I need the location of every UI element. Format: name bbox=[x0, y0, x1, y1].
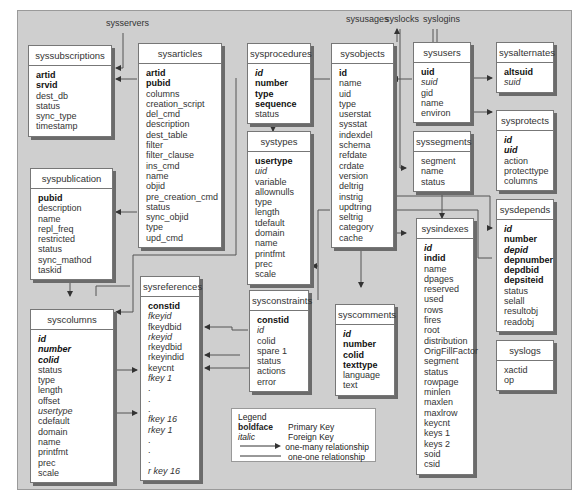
column-field: refdate bbox=[339, 150, 393, 160]
column-field: creation_script bbox=[146, 99, 221, 109]
column-field: srvid bbox=[36, 80, 111, 90]
legend-key-italic: italic bbox=[238, 432, 288, 442]
column-field: depnumber bbox=[504, 255, 553, 265]
table-syssegments[interactable]: syssegmentssegmentnamestatus bbox=[413, 131, 471, 192]
column-field: depid bbox=[504, 245, 553, 255]
column-field: sync_objid bbox=[146, 212, 221, 222]
table-title: syscolumns bbox=[31, 310, 113, 330]
table-sysdepends[interactable]: sysdependsidnumberdepiddepnumberdepdbidd… bbox=[496, 199, 554, 332]
legend-desc-foreign-key: Foreign Key bbox=[288, 432, 334, 442]
table-title: syssegments bbox=[414, 132, 470, 152]
legend-row-one-many: one-many relationship bbox=[238, 442, 369, 452]
legend-desc-primary-key: Primary Key bbox=[288, 422, 334, 432]
column-field: maxlrow bbox=[424, 408, 473, 418]
column-field: offset bbox=[38, 396, 113, 406]
column-list: segmentnamestatus bbox=[414, 152, 470, 191]
column-list: idnameuidtypeuserstatsysstatindexdelsche… bbox=[332, 64, 393, 247]
column-field: sequence bbox=[255, 99, 310, 109]
legend-key-boldface: boldface bbox=[238, 422, 288, 432]
column-list: xactidop bbox=[497, 361, 553, 390]
column-field: length bbox=[255, 207, 310, 217]
column-field: minlen bbox=[424, 387, 473, 397]
column-field: . bbox=[148, 394, 199, 404]
column-field: id bbox=[504, 224, 553, 234]
column-field: name bbox=[38, 214, 112, 224]
table-syscolumns[interactable]: syscolumnsidnumbercolidstatustypelengtho… bbox=[30, 309, 114, 483]
table-sysindexes[interactable]: sysindexesidindidnamedpagesreservedusedr… bbox=[416, 218, 474, 475]
column-field: seltrig bbox=[339, 212, 393, 222]
column-field: fires bbox=[424, 315, 473, 325]
column-field: segment bbox=[421, 156, 470, 166]
table-sysprotects[interactable]: sysprotectsiduidactionprotecttypecolumns bbox=[496, 110, 554, 191]
table-syscomments[interactable]: syscommentsidnumbercolidtexttypelanguage… bbox=[335, 304, 395, 396]
column-field: tdefault bbox=[255, 218, 310, 228]
column-field: distribution bbox=[424, 336, 473, 346]
column-field: cache bbox=[339, 233, 393, 243]
table-title: sysalternates bbox=[497, 43, 553, 63]
column-field: OrigFillFactor bbox=[424, 346, 473, 356]
column-field: number bbox=[255, 78, 310, 88]
table-syssubscriptions[interactable]: syssubscriptionsartidsrviddest_dbstatuss… bbox=[28, 45, 112, 137]
column-field: domain bbox=[255, 228, 310, 238]
column-field: prec bbox=[38, 458, 113, 468]
column-field: name bbox=[421, 166, 470, 176]
legend-row-one-one: one-one relationship bbox=[238, 452, 369, 462]
column-field: crdate bbox=[339, 161, 393, 171]
column-list: pubiddescriptionnamerepl_freqrestricteds… bbox=[31, 189, 112, 279]
table-title: sysprotects bbox=[497, 111, 553, 131]
legend-title: Legend bbox=[238, 412, 369, 422]
column-field: cdefault bbox=[38, 416, 113, 426]
column-field: pre_creation_cmd bbox=[146, 192, 221, 202]
table-title: sysusers bbox=[414, 43, 470, 63]
column-list: idindidnamedpagesreservedusedrowsfiresro… bbox=[417, 239, 473, 474]
column-field: pubid bbox=[38, 193, 112, 203]
column-field: restricted bbox=[38, 234, 112, 244]
table-title: syscomments bbox=[336, 305, 394, 325]
column-field: uid bbox=[255, 166, 310, 176]
external-table-sysusages: sysusages bbox=[346, 14, 389, 24]
arrow-line-icon bbox=[238, 442, 285, 452]
column-field: soid bbox=[424, 449, 473, 459]
column-field: rkeyindid bbox=[148, 352, 199, 362]
table-title: syspublication bbox=[31, 169, 112, 189]
table-title: sysdepends bbox=[497, 200, 553, 220]
column-field: description bbox=[38, 203, 112, 213]
column-field: keys 2 bbox=[424, 439, 473, 449]
table-sysusers[interactable]: sysusersuidsuidgidnameenviron bbox=[413, 42, 471, 123]
column-list: idnumbercolidtexttypelanguagetext bbox=[336, 325, 394, 395]
column-field: readobj bbox=[504, 317, 553, 327]
table-systypes[interactable]: systypesusertypeuidvariableallownullstyp… bbox=[247, 131, 311, 285]
table-title: sysobjects bbox=[332, 44, 393, 64]
column-field: maxlen bbox=[424, 397, 473, 407]
column-field: resultobj bbox=[504, 306, 553, 316]
column-field: variable bbox=[255, 177, 310, 187]
table-sysconstraints[interactable]: sysconstraintsconstididcolidspare 1statu… bbox=[249, 290, 309, 392]
column-field: printfmt bbox=[38, 447, 113, 457]
column-field: id bbox=[339, 68, 393, 78]
column-field: xactid bbox=[504, 365, 553, 375]
column-field: rowpage bbox=[424, 377, 473, 387]
table-sysreferences[interactable]: sysreferencesconstidfkeyidfkeydbidrkeyid… bbox=[140, 276, 200, 481]
table-title: syslogs bbox=[497, 341, 553, 361]
column-field: type bbox=[255, 89, 310, 99]
table-sysalternates[interactable]: sysalternatesaltsuidsuid bbox=[496, 42, 554, 93]
column-field: uid bbox=[504, 145, 553, 155]
table-sysarticles[interactable]: sysarticlesartidpubidcolumnscreation_scr… bbox=[138, 43, 222, 248]
column-field: indexdel bbox=[339, 130, 393, 140]
column-field: rkeydbid bbox=[148, 342, 199, 352]
column-field: instrig bbox=[339, 192, 393, 202]
column-field: . bbox=[148, 435, 199, 445]
table-sysobjects[interactable]: sysobjectsidnameuidtypeuserstatsysstatin… bbox=[331, 43, 394, 248]
column-field: . bbox=[148, 455, 199, 465]
column-field: name bbox=[339, 78, 393, 88]
table-syspublication[interactable]: syspublicationpubiddescriptionnamerepl_f… bbox=[30, 168, 113, 280]
table-sysprocedures[interactable]: sysproceduresidnumbertypesequencestatus bbox=[247, 43, 311, 124]
column-field: type bbox=[255, 197, 310, 207]
column-field: upd_cmd bbox=[146, 233, 221, 243]
table-syslogs[interactable]: syslogsxactidop bbox=[496, 340, 554, 391]
column-list: idnumberdepiddepnumberdepdbiddepsiteidst… bbox=[497, 220, 553, 331]
column-field: segment bbox=[424, 356, 473, 366]
column-field: columns bbox=[146, 89, 221, 99]
column-field: . bbox=[148, 383, 199, 393]
table-title: sysreferences bbox=[141, 277, 199, 297]
